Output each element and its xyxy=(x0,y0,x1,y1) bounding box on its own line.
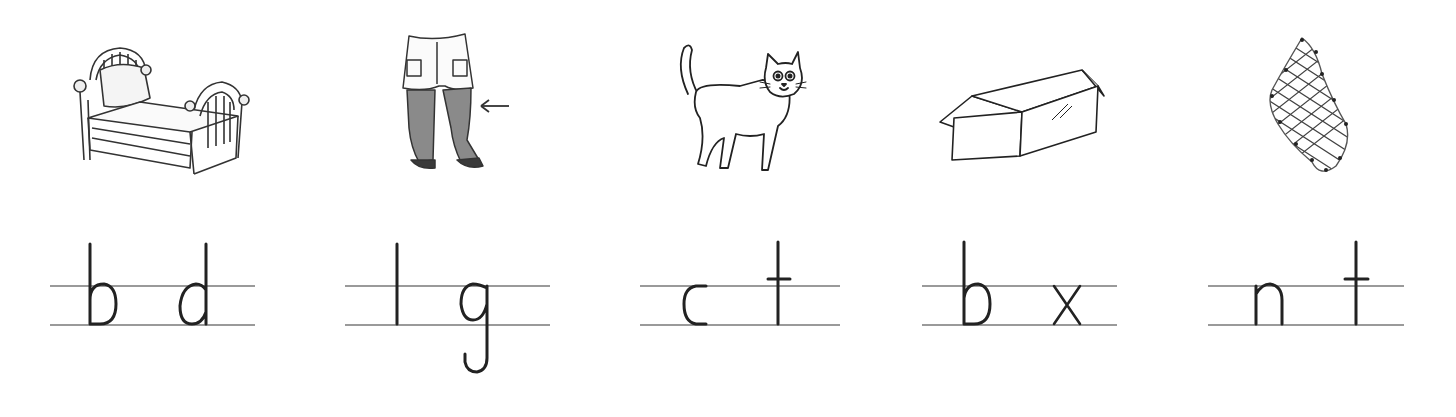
midline-rule xyxy=(640,285,840,287)
letter-b xyxy=(86,230,126,330)
box-image xyxy=(932,60,1112,165)
worksheet-item-3: c t xyxy=(640,0,840,417)
worksheet-item-4: b x xyxy=(922,0,1117,417)
baseline-rule xyxy=(640,324,840,326)
handwriting-line-4: b x xyxy=(922,230,1117,390)
worksheet-item-5: n t xyxy=(1208,0,1404,417)
letter-d xyxy=(176,230,216,330)
letter-c xyxy=(678,230,714,330)
letter-g xyxy=(457,230,497,380)
letter-l xyxy=(389,230,409,330)
net-image xyxy=(1260,34,1360,184)
letter-x xyxy=(1050,230,1086,330)
handwriting-line-1: b d xyxy=(50,230,255,390)
worksheet-item-2: l g xyxy=(345,0,550,417)
bed-image xyxy=(60,40,250,180)
handwriting-line-2: l g xyxy=(345,230,550,390)
legs-in-tights-image xyxy=(395,28,515,178)
cat-image xyxy=(670,38,810,183)
handwriting-line-3: c t xyxy=(640,230,840,390)
worksheet-item-1: b d xyxy=(50,0,255,417)
letter-t xyxy=(762,230,798,330)
midline-rule xyxy=(345,285,550,287)
baseline-rule xyxy=(50,324,255,326)
midline-rule xyxy=(50,285,255,287)
handwriting-line-5: n t xyxy=(1208,230,1404,390)
letter-n xyxy=(1250,230,1290,330)
letter-b xyxy=(960,230,1000,330)
letter-t xyxy=(1340,230,1376,330)
baseline-rule xyxy=(345,324,550,326)
baseline-rule xyxy=(922,324,1117,326)
midline-rule xyxy=(922,285,1117,287)
